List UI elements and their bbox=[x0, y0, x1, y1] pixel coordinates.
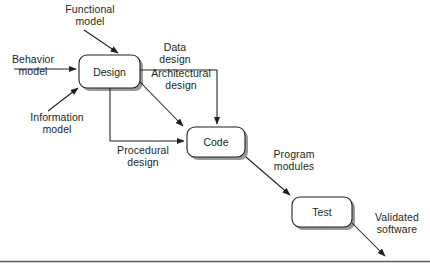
label-behavior-model: Behavior model bbox=[6, 53, 60, 77]
label-data-design: Data design bbox=[151, 41, 199, 65]
label-information-model: Information model bbox=[23, 111, 91, 135]
node-test-shape bbox=[292, 197, 352, 227]
diagram-canvas: Design Code Test Functional model Behavi… bbox=[0, 0, 430, 269]
label-program-modules: Program modules bbox=[263, 148, 325, 172]
edge-functional-model bbox=[84, 30, 118, 53]
label-functional-model: Functional model bbox=[60, 3, 120, 27]
node-code-shape bbox=[187, 127, 245, 157]
edge-information-model bbox=[48, 88, 78, 111]
label-validated-software: Validated software bbox=[366, 211, 428, 235]
edge-procedural-design bbox=[110, 88, 184, 141]
node-design-shape bbox=[79, 55, 140, 88]
label-architectural-design: Architectural design bbox=[143, 67, 219, 91]
label-procedural-design: Procedural design bbox=[108, 144, 178, 168]
